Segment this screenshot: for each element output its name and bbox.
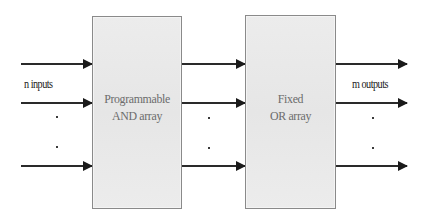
output-dot-1 bbox=[372, 117, 374, 119]
or-array-label-line2: OR array bbox=[251, 107, 329, 124]
between-dot-2 bbox=[208, 147, 210, 149]
outputs-label: m outputs bbox=[352, 77, 388, 92]
product-term-arrows bbox=[182, 64, 245, 166]
or-array-label: Fixed OR array bbox=[251, 90, 329, 124]
arrows-layer bbox=[0, 0, 428, 224]
diagram-canvas: Programmable AND array Fixed OR array n … bbox=[0, 0, 428, 224]
inputs-label: n inputs bbox=[24, 77, 53, 92]
between-dot-1 bbox=[208, 117, 210, 119]
or-array-label-line1: Fixed bbox=[251, 90, 329, 107]
and-array-block: Programmable AND array bbox=[92, 16, 182, 209]
and-array-label-line2: AND array bbox=[98, 107, 175, 124]
output-dot-2 bbox=[372, 147, 374, 149]
and-array-label-line1: Programmable bbox=[98, 90, 175, 107]
and-array-label: Programmable AND array bbox=[98, 90, 175, 124]
input-dot-1 bbox=[56, 116, 58, 118]
input-dot-2 bbox=[56, 146, 58, 148]
or-array-block: Fixed OR array bbox=[245, 15, 336, 209]
